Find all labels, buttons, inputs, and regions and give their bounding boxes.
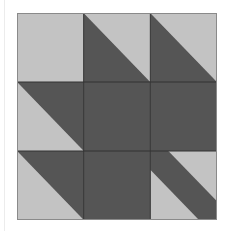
cell-r1-c1-solid — [84, 82, 151, 151]
cell-r2-c1-solid — [84, 151, 151, 220]
quilt-block-diagram — [17, 13, 217, 220]
cell-r1-c2-solid — [150, 82, 217, 151]
cell-r0-c0-solid — [17, 13, 84, 82]
quilt-block-svg — [17, 13, 217, 220]
page-edge-line — [4, 0, 5, 231]
